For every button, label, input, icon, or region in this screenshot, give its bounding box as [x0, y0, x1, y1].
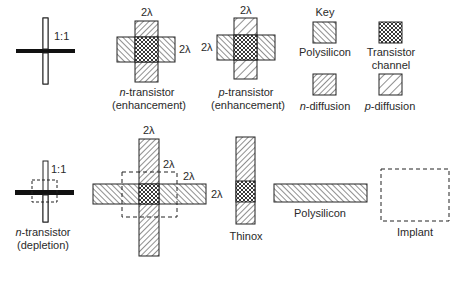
enhancement-word: (enhancement) — [112, 99, 186, 111]
polysilicon-label: Polysilicon — [290, 207, 350, 220]
transistor-word: -transistor — [22, 226, 71, 238]
diffusion-word: -diffusion — [306, 100, 350, 112]
n-transistor-layout — [117, 21, 175, 82]
key-swatch-polysilicon — [313, 22, 336, 43]
enhancement-word: (enhancement) — [211, 99, 285, 111]
depletion-dim-right: 2λ — [211, 188, 223, 200]
p-transistor-dim-top: 2λ — [240, 4, 252, 16]
transistor-word: Transistor — [367, 46, 416, 58]
key-label-polysilicon: Polysilicon — [297, 46, 353, 59]
stick-nmos — [16, 18, 75, 84]
p-transistor-dim-left: 2λ — [201, 41, 213, 53]
depletion-dim-implant-top: 2λ — [163, 158, 175, 170]
ratio-label: 1:1 — [54, 30, 69, 43]
key-label-transistor-channel: Transistor channel — [362, 46, 420, 72]
depletion-dim-implant-right: 2λ — [183, 170, 195, 182]
diffusion-word: -diffusion — [371, 100, 415, 112]
key-label-p-diffusion: p-diffusion — [362, 100, 418, 113]
depletion-transistor-label: n-transistor (depletion) — [10, 226, 76, 252]
implant-label: Implant — [392, 226, 438, 239]
transistor-word: -transistor — [126, 86, 175, 98]
n-transistor-dim-right: 2λ — [179, 43, 191, 55]
key-swatch-transistor-channel — [379, 22, 402, 43]
key-swatch-p-diffusion — [379, 74, 402, 95]
key-label-n-diffusion: n-diffusion — [297, 100, 353, 113]
n-transistor-dim-top: 2λ — [141, 6, 153, 18]
p-transistor-layout — [217, 18, 275, 79]
n-transistor-label: n-transistor (enhancement) — [112, 86, 182, 112]
depletion-ratio-label: 1:1 — [51, 163, 66, 176]
implant-layer — [381, 169, 449, 221]
depletion-transistor-layout — [93, 139, 206, 256]
depletion-word: (depletion) — [17, 239, 69, 251]
channel-word: channel — [372, 59, 411, 71]
thinox-layer — [236, 137, 255, 224]
thinox-label: Thinox — [226, 230, 266, 243]
p-transistor-label: p-transistor (enhancement) — [211, 86, 281, 112]
transistor-word: -transistor — [225, 86, 274, 98]
polysilicon-layer — [274, 184, 367, 202]
key-swatch-n-diffusion — [313, 74, 336, 95]
depletion-dim-top: 2λ — [143, 124, 155, 136]
key-title: Key — [314, 6, 336, 19]
